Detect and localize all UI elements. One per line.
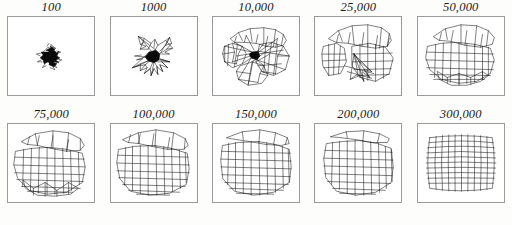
panel-label-10000: 10,000 bbox=[238, 0, 274, 16]
panel-row-1: 100 bbox=[0, 0, 512, 107]
panel-box-75000[interactable] bbox=[7, 123, 95, 203]
panel-label-50000: 50,000 bbox=[443, 0, 479, 16]
som-mesh-25000 bbox=[315, 17, 401, 95]
panel-label-200000: 200,000 bbox=[337, 107, 379, 123]
panel-box-100000[interactable] bbox=[110, 123, 198, 203]
som-mesh-200000 bbox=[315, 124, 401, 202]
panel-box-200000[interactable] bbox=[314, 123, 402, 203]
som-mesh-300000 bbox=[418, 124, 504, 202]
som-mesh-1000 bbox=[111, 17, 197, 95]
som-mesh-10000 bbox=[213, 17, 299, 95]
panel-label-25000: 25,000 bbox=[341, 0, 377, 16]
panel-box-50000[interactable] bbox=[417, 16, 505, 96]
panel-75000[interactable]: 75,000 bbox=[0, 107, 102, 203]
panel-200000[interactable]: 200,000 bbox=[307, 107, 409, 203]
panel-box-25000[interactable] bbox=[314, 16, 402, 96]
panel-label-100000: 100,000 bbox=[133, 107, 175, 123]
panel-50000[interactable]: 50,000 bbox=[410, 0, 512, 96]
panel-25000[interactable]: 25,000 bbox=[307, 0, 409, 96]
caption-strip bbox=[0, 213, 512, 225]
som-mesh-100000 bbox=[111, 124, 197, 202]
som-mesh-75000 bbox=[8, 124, 94, 202]
panel-box-150000[interactable] bbox=[212, 123, 300, 203]
som-mesh-100 bbox=[8, 17, 94, 95]
panel-grid: 100 bbox=[0, 0, 512, 225]
panel-label-300000: 300,000 bbox=[440, 107, 482, 123]
panel-label-150000: 150,000 bbox=[235, 107, 277, 123]
panel-box-300000[interactable] bbox=[417, 123, 505, 203]
panel-label-100: 100 bbox=[42, 0, 61, 16]
panel-label-1000: 1000 bbox=[141, 0, 167, 16]
panel-300000[interactable]: 300,000 bbox=[410, 107, 512, 203]
panel-150000[interactable]: 150,000 bbox=[205, 107, 307, 203]
som-mesh-150000 bbox=[213, 124, 299, 202]
som-mesh-50000 bbox=[418, 17, 504, 95]
panel-label-75000: 75,000 bbox=[33, 107, 69, 123]
panel-row-2: 75,000 bbox=[0, 107, 512, 214]
panel-100000[interactable]: 100,000 bbox=[102, 107, 204, 203]
panel-100[interactable]: 100 bbox=[0, 0, 102, 96]
panel-1000[interactable]: 1000 bbox=[102, 0, 204, 96]
panel-10000[interactable]: 10,000 bbox=[205, 0, 307, 96]
panel-box-1000[interactable] bbox=[110, 16, 198, 96]
panel-box-100[interactable] bbox=[7, 16, 95, 96]
som-training-figure: 100 bbox=[0, 0, 512, 225]
panel-box-10000[interactable] bbox=[212, 16, 300, 96]
